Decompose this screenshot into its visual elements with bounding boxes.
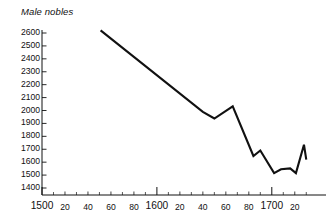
data-series-group [101, 30, 307, 173]
chart-figure: Male nobles 2600250024002300220021002000… [0, 0, 328, 224]
y-axis-ticks [42, 33, 47, 188]
plot-area [0, 0, 328, 224]
series-line-male-nobles [101, 30, 307, 173]
x-axis-ticks [42, 187, 306, 195]
